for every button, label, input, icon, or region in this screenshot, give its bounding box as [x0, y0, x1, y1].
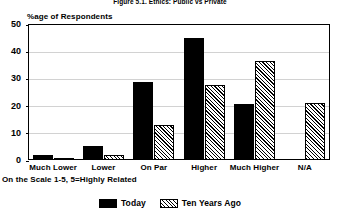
bar-ten-years-ago-lower [104, 155, 124, 160]
y-axis-caption: %age of Respondents [27, 12, 112, 21]
y-axis-tick-label: 10 [0, 129, 21, 138]
hatched-swatch [160, 199, 178, 208]
y-axis-tick-label: 20 [0, 102, 21, 111]
x-axis-label-on-par: On Par [129, 163, 179, 173]
figure-footnote: On the Scale 1-5, 5=Highly Related [2, 175, 137, 184]
bar-today-much-higher [234, 104, 254, 160]
legend-label: Today [121, 198, 146, 208]
x-axis-label-much-higher: Much Higher [229, 163, 279, 173]
legend-label: Ten Years Ago [182, 198, 241, 208]
x-axis-labels: Much LowerLowerOn ParHigherMuch HigherN/… [28, 163, 330, 175]
x-axis-label-n-a: N/A [280, 163, 330, 173]
x-axis-label-lower: Lower [78, 163, 128, 173]
bar-ten-years-ago-much-higher [255, 61, 275, 160]
bar-ten-years-ago-much-lower [54, 158, 74, 160]
legend-item-today: Today [99, 198, 146, 208]
bar-today-lower [83, 146, 103, 160]
solid-black-swatch [99, 199, 117, 208]
bar-ten-years-ago-higher [205, 85, 225, 160]
y-axis-tick-label: 50 [0, 20, 21, 29]
x-axis-label-much-lower: Much Lower [28, 163, 78, 173]
y-axis-tick-label: 30 [0, 74, 21, 83]
y-axis-tick-label: 0 [0, 156, 21, 165]
bar-today-on-par [133, 82, 153, 160]
chart-legend: TodayTen Years Ago [0, 198, 340, 208]
y-axis-tick [26, 161, 29, 162]
bar-today-higher [184, 38, 204, 160]
bars-layer [28, 24, 330, 160]
figure-container: Figure 5.1. Ethics: Public vs Private %a… [0, 0, 340, 216]
figure-title: Figure 5.1. Ethics: Public vs Private [0, 0, 340, 6]
y-axis-tick-label: 40 [0, 47, 21, 56]
legend-item-ten-years-ago: Ten Years Ago [160, 198, 241, 208]
bar-ten-years-ago-n-a [305, 103, 325, 160]
bar-today-much-lower [33, 155, 53, 160]
x-axis-label-higher: Higher [179, 163, 229, 173]
bar-ten-years-ago-on-par [154, 125, 174, 160]
